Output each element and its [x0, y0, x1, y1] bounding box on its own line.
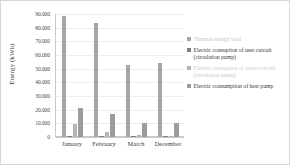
y-axis-tick-label: 90.000: [35, 11, 50, 17]
x-axis-tick-label: February: [90, 140, 118, 147]
bar[interactable]: [131, 136, 136, 137]
x-axis-tick-label: January: [58, 140, 86, 147]
bar-group: [58, 14, 86, 137]
bar-group: [122, 14, 150, 137]
plot-area: [56, 14, 184, 137]
bar[interactable]: [99, 136, 104, 137]
y-axis-tick-label: 10.000: [35, 120, 50, 126]
gridline: [56, 137, 184, 138]
y-axis-tick-label: 50.000: [35, 66, 50, 72]
bar[interactable]: [137, 135, 142, 137]
bar[interactable]: [62, 16, 67, 137]
bar-group: [154, 14, 182, 137]
bar-group: [90, 14, 118, 137]
legend-label: Electric consuption of user curcuit (cir…: [194, 47, 288, 61]
y-axis-tick-label: 0: [47, 134, 50, 140]
legend-swatch-icon: [187, 48, 191, 52]
legend-item[interactable]: Thermal energy load: [187, 36, 287, 43]
y-axis-tick-label: 70.000: [35, 38, 50, 44]
bar[interactable]: [142, 123, 147, 137]
legend-label: Thermal energy load: [194, 36, 241, 43]
bar[interactable]: [110, 114, 115, 137]
y-axis-tick-label: 30.000: [35, 93, 50, 99]
bar[interactable]: [78, 108, 83, 137]
bar[interactable]: [126, 65, 131, 137]
legend-item[interactable]: Electric consuption of source circuit (c…: [187, 65, 287, 79]
bar[interactable]: [94, 23, 99, 137]
bar[interactable]: [158, 63, 163, 137]
bar[interactable]: [163, 136, 168, 137]
y-axis-tick-label: 80.000: [35, 25, 50, 31]
y-axis-tick-labels: 90.00080.00070.00060.00050.00040.00030.0…: [1, 14, 53, 137]
bar[interactable]: [105, 132, 110, 137]
legend-swatch-icon: [187, 84, 191, 88]
legend-label: Electric consumption of heat pump: [194, 83, 274, 90]
y-axis-tick-label: 40.000: [35, 79, 50, 85]
bar[interactable]: [67, 136, 72, 137]
x-axis-tick-label: December: [154, 140, 182, 147]
chart-figure: Energy (kWh) 90.00080.00070.00060.00050.…: [0, 0, 290, 165]
legend-item[interactable]: Electric consuption of user curcuit (cir…: [187, 47, 287, 61]
bar[interactable]: [169, 136, 174, 137]
bar[interactable]: [73, 124, 78, 137]
y-axis-tick-label: 20.000: [35, 107, 50, 113]
x-axis-tick-label: March: [122, 140, 150, 147]
y-axis-tick-label: 60.000: [35, 52, 50, 58]
legend-item[interactable]: Electric consumption of heat pump: [187, 83, 287, 90]
chart-legend: Thermal energy loadElectric consuption o…: [187, 36, 287, 93]
bar[interactable]: [174, 123, 179, 137]
legend-label: Electric consuption of source circuit (c…: [194, 65, 288, 79]
x-axis-tick-labels: JanuaryFebruaryMarchDecember: [56, 140, 184, 147]
legend-swatch-icon: [187, 66, 191, 70]
bar-groups: [56, 14, 184, 137]
legend-swatch-icon: [187, 37, 191, 41]
